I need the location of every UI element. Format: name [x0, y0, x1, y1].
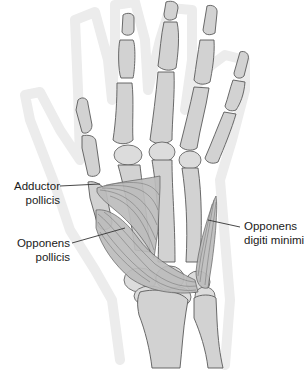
label-adductor-pollicis-line1: Adductor — [6, 179, 60, 193]
label-opponens-pollicis: Opponens pollicis — [14, 236, 70, 264]
label-adductor-pollicis: Adductor pollicis — [6, 179, 60, 207]
label-adductor-pollicis-line2: pollicis — [6, 193, 60, 207]
label-opponens-digiti-minimi: Opponens digiti minimi — [244, 219, 305, 247]
forearm-bones — [138, 290, 223, 368]
label-opponens-digiti-minimi-line1: Opponens — [244, 219, 305, 233]
label-opponens-pollicis-line1: Opponens — [14, 236, 70, 250]
label-opponens-digiti-minimi-line2: digiti minimi — [244, 233, 305, 247]
label-opponens-pollicis-line2: pollicis — [14, 250, 70, 264]
